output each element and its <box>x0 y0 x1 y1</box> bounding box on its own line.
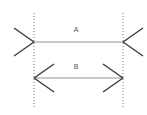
segment-b-right-arrow-upper <box>103 64 123 78</box>
segment-a-left-fin-upper <box>14 28 34 42</box>
reference-lines-group <box>34 13 123 107</box>
segment-b-left-arrow-upper <box>34 64 54 78</box>
segment-b-group: B <box>34 63 123 92</box>
segment-b-right-arrow-lower <box>103 78 123 92</box>
muller-lyer-figure: A B <box>0 0 147 115</box>
segment-b-left-arrow-lower <box>34 78 54 92</box>
segment-a-right-fin-lower <box>123 42 143 56</box>
segment-a-left-fin-lower <box>14 42 34 56</box>
segment-a-label: A <box>74 26 79 33</box>
segment-a-group: A <box>14 26 143 56</box>
segment-b-label: B <box>74 63 79 70</box>
segment-a-right-fin-upper <box>123 28 143 42</box>
figure-canvas: A B <box>0 0 147 115</box>
